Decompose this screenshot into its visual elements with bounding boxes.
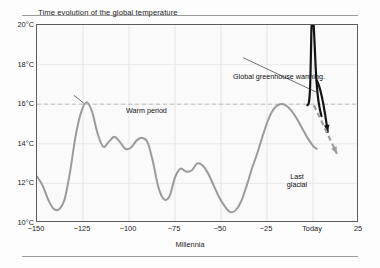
x-axis-tick-labels: −150−125−100−75−50−25Today25 [0,224,380,238]
bottom-divider-rule [22,256,358,257]
chart-plot-svg [37,25,358,222]
x-tick-label-6: Today [302,224,322,233]
y-tick-label-14: 14°C [17,139,34,148]
annotation-warm-period: Warm period [126,107,167,115]
y-tick-label-20: 20°C [17,20,34,29]
figure-container: Time evolution of the global temperature… [0,0,380,268]
y-tick-label-16: 16°C [17,99,34,108]
x-tick-label-2: −100 [120,224,137,233]
x-tick-label-0: −150 [28,224,45,233]
annotation-last-glacial-line2: glacial [287,180,307,189]
chart-title: Time evolution of the global temperature [38,8,178,17]
annotation-global-greenhouse-warming: Global greenhouse warming. [233,73,325,81]
data-series [37,25,321,212]
x-tick-label-7: 25 [354,224,362,233]
y-tick-label-12: 12°C [17,178,34,187]
x-tick-label-5: −25 [260,224,273,233]
x-axis-title: Millennia [0,240,380,249]
x-tick-label-1: −125 [74,224,91,233]
plot-area: Warm period Global greenhouse warming. L… [36,24,358,222]
y-tick-label-18: 18°C [17,60,34,69]
annotation-last-glacial: Last glacial [280,173,314,188]
x-tick-label-3: −75 [168,224,181,233]
x-tick-label-4: −50 [214,224,227,233]
